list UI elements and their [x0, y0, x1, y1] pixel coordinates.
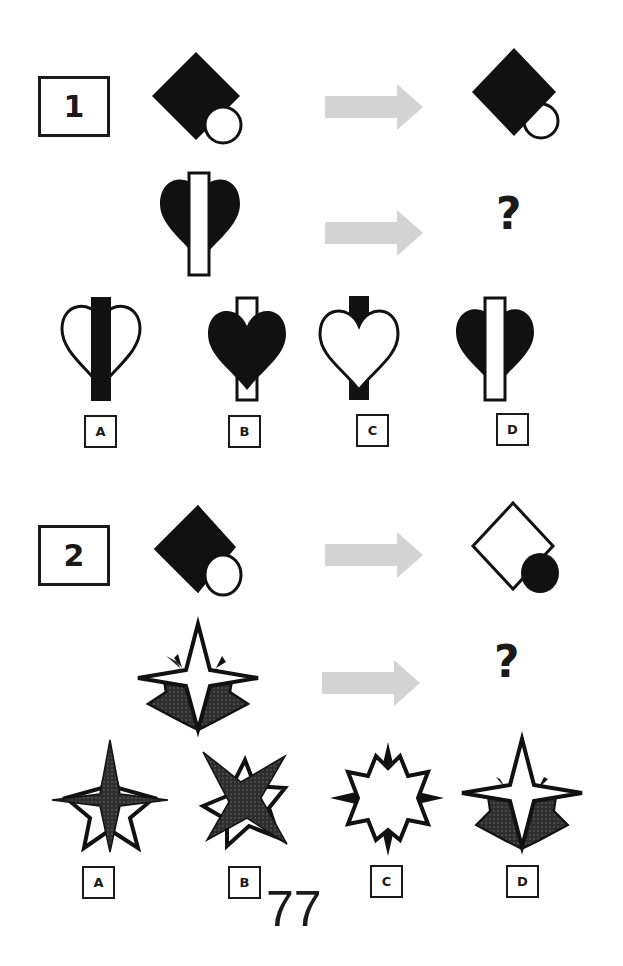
- puzzle-1-arrow-2-icon: [325, 210, 425, 256]
- puzzle-2-number: 2: [64, 538, 85, 573]
- puzzle-2-option-c-icon[interactable]: [330, 742, 446, 858]
- puzzle-2-option-b-icon[interactable]: [193, 748, 303, 858]
- puzzle-1-number-box: 1: [38, 76, 110, 137]
- puzzle-2-option-a-icon[interactable]: [50, 740, 170, 860]
- puzzle-1-example-diamond-circle-icon: [150, 52, 250, 144]
- puzzle-2-arrow-2-icon: [322, 660, 422, 706]
- puzzle-1-option-c-icon[interactable]: [316, 296, 402, 402]
- puzzle-2-example-diamond-circle-icon: [152, 505, 252, 597]
- puzzle-2-option-d-label[interactable]: D: [506, 865, 539, 898]
- puzzle-2-option-a-label[interactable]: A: [82, 866, 115, 899]
- puzzle-1-option-b-label[interactable]: B: [228, 415, 261, 448]
- puzzle-2-option-b-label[interactable]: B: [228, 866, 261, 899]
- puzzle-1-number: 1: [64, 89, 85, 124]
- puzzle-2-arrow-icon: [325, 532, 425, 578]
- puzzle-1-option-a-icon[interactable]: [58, 297, 144, 403]
- puzzle-1-result-diamond-circle-icon: [468, 48, 568, 140]
- puzzle-1-question-mark: ?: [496, 188, 522, 239]
- puzzle-2-question-star-icon: [136, 622, 260, 734]
- page-number: 77: [266, 880, 322, 938]
- puzzle-1-question-heart-bar-icon: [158, 170, 242, 278]
- puzzle-2-option-c-label[interactable]: C: [370, 865, 403, 898]
- puzzle-1-option-a-label[interactable]: A: [84, 415, 117, 448]
- puzzle-2-result-diamond-circle-icon: [468, 500, 568, 596]
- puzzle-1-option-b-icon[interactable]: [204, 296, 290, 402]
- puzzle-2-option-d-icon[interactable]: [460, 737, 584, 853]
- puzzle-1-option-c-label[interactable]: C: [356, 414, 389, 447]
- puzzle-2-number-box: 2: [38, 525, 110, 586]
- puzzle-1-option-d-label[interactable]: D: [496, 413, 529, 446]
- puzzle-1-option-d-icon[interactable]: [452, 296, 538, 402]
- puzzle-2-question-mark: ?: [494, 636, 520, 687]
- puzzle-1-arrow-icon: [325, 84, 425, 130]
